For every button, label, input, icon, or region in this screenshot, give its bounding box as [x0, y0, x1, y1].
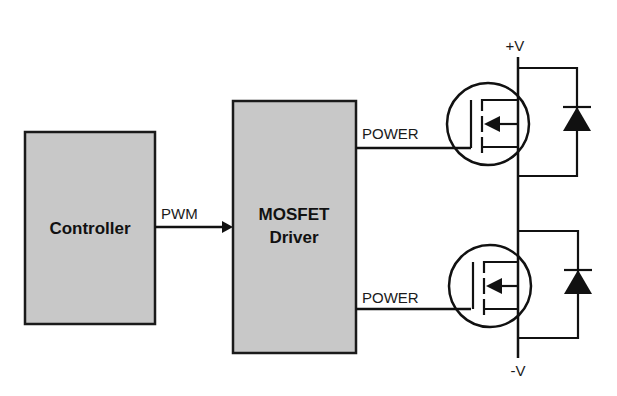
- arrow-head-icon: [222, 221, 233, 233]
- negative-rail-label: -V: [511, 362, 526, 379]
- controller-block: Controller: [25, 132, 155, 324]
- driver-label-line1: MOSFET: [259, 205, 330, 224]
- pwm-signal: PWM: [155, 205, 233, 233]
- positive-rail-label: +V: [506, 37, 525, 54]
- power-top-label: POWER: [362, 125, 419, 142]
- pwm-label: PWM: [161, 205, 198, 222]
- half-bridge-diagram: Controller PWM MOSFET Driver POWER POWER…: [0, 0, 617, 396]
- flyback-diode-low-icon: [518, 231, 592, 338]
- power-bottom-label: POWER: [362, 289, 419, 306]
- mosfet-high-side-icon: [447, 83, 529, 165]
- mosfet-driver-block: MOSFET Driver: [233, 101, 356, 353]
- controller-label: Controller: [49, 219, 131, 238]
- driver-label-line2: Driver: [269, 228, 319, 247]
